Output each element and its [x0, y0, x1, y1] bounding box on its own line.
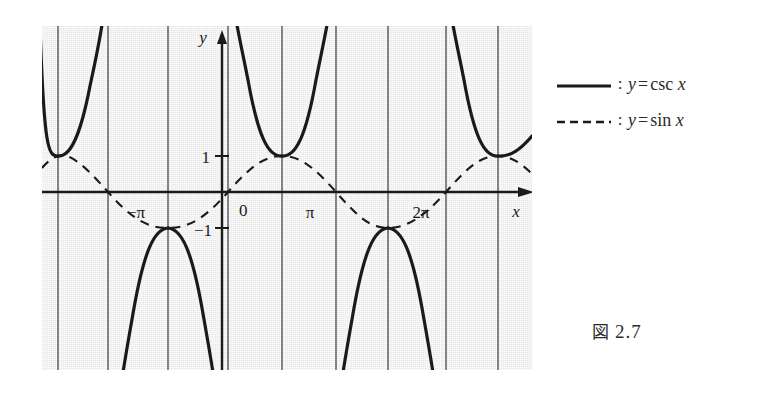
- csc-branch-7: [341, 228, 388, 370]
- legend-sin-lhs: y: [628, 110, 636, 130]
- legend-sin-fn: sin: [650, 110, 671, 130]
- x-axis: [42, 187, 532, 197]
- x-tick-label-pi: π: [306, 203, 315, 222]
- legend: : y=csc x : y=sin x: [556, 66, 752, 138]
- plot-svg: y x −π 0 π 2π 1 −1: [42, 26, 532, 370]
- legend-sin-arg: x: [676, 110, 684, 130]
- y-tick-label-one: 1: [202, 148, 211, 167]
- plot-area: y x −π 0 π 2π 1 −1: [42, 26, 532, 370]
- legend-csc-eq: =: [636, 74, 650, 94]
- legend-label-sin: y=sin x: [628, 110, 684, 131]
- y-axis-label: y: [197, 28, 207, 47]
- csc-branch-10: [498, 136, 532, 156]
- x-tick-label-neg-pi: −π: [127, 203, 146, 222]
- figure-caption-kanji: 図: [592, 322, 615, 342]
- legend-csc-fn: csc: [650, 74, 673, 94]
- x-axis-label: x: [511, 202, 520, 221]
- legend-csc-lhs: y: [628, 74, 636, 94]
- csc-branch-8: [388, 228, 435, 370]
- csc-branch-4: [168, 228, 215, 370]
- figure-caption-number: 2.7: [615, 321, 642, 342]
- csc-branch-3: [121, 228, 168, 370]
- csc-branch-6: [282, 26, 329, 156]
- legend-entry-sin: : y=sin x: [556, 102, 752, 138]
- csc-branch-5: [235, 26, 282, 156]
- legend-entry-csc: : y=csc x: [556, 66, 752, 102]
- csc-branch-2: [58, 26, 103, 156]
- x-tick-label-two-pi: 2π: [412, 203, 430, 222]
- figure-caption: 図2.7: [592, 318, 642, 343]
- csc-branch-1: [42, 26, 58, 156]
- gridlines-vertical: [58, 26, 498, 370]
- dashed-line-swatch-icon: [556, 114, 612, 126]
- csc-branch-9: [451, 26, 498, 156]
- legend-csc-arg: x: [678, 74, 686, 94]
- figure-container: y x −π 0 π 2π 1 −1 : y=csc x: [0, 0, 761, 411]
- legend-label-csc: y=csc x: [628, 74, 686, 95]
- legend-colon-sin: :: [612, 110, 628, 130]
- solid-line-swatch-icon: [556, 78, 612, 90]
- legend-colon-csc: :: [612, 74, 628, 94]
- x-tick-label-zero: 0: [239, 201, 248, 220]
- y-axis: [217, 30, 227, 370]
- curve-csc: [42, 26, 532, 370]
- y-tick-label-neg-one: −1: [194, 221, 212, 240]
- legend-sin-eq: =: [636, 110, 650, 130]
